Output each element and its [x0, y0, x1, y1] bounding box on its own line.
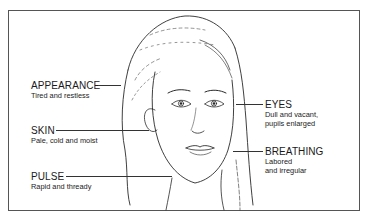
leader-eyes — [236, 104, 263, 105]
eyes-title: EYES — [265, 99, 318, 110]
breathing-title: BREATHING — [265, 146, 324, 157]
appearance-title: APPEARANCE — [31, 80, 100, 91]
pulse-desc: Rapid and thready — [31, 182, 91, 191]
breathing-desc-line1: Labored — [265, 157, 324, 166]
leader-appearance — [98, 85, 121, 86]
breathing-desc-line2: and irregular — [265, 166, 324, 175]
skin-desc: Pale, cold and moist — [31, 136, 98, 145]
eyes-desc-line2: pupils enlarged — [265, 119, 318, 128]
label-skin: SKIN Pale, cold and moist — [31, 125, 98, 145]
leader-breathing — [233, 151, 263, 152]
leader-pulse — [66, 176, 172, 177]
label-appearance: APPEARANCE Tired and restless — [31, 80, 100, 100]
appearance-desc: Tired and restless — [31, 91, 100, 100]
eyes-desc-line1: Dull and vacant, — [265, 110, 318, 119]
leader-skin — [56, 130, 149, 131]
label-pulse: PULSE Rapid and thready — [31, 171, 91, 191]
label-eyes: EYES Dull and vacant, pupils enlarged — [265, 99, 318, 128]
label-breathing: BREATHING Labored and irregular — [265, 146, 324, 175]
